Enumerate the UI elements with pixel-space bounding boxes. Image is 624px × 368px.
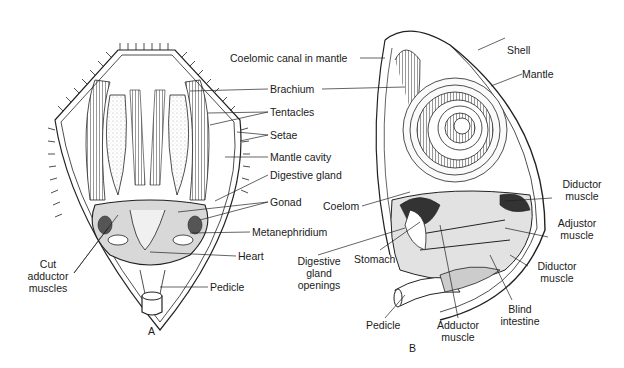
label-adductor-muscle: Adductor muscle — [430, 319, 486, 343]
label-coelomic-canal: Coelomic canal in mantle — [230, 52, 347, 64]
brachiopod-anatomy-figure: Brachium Tentacles Setae Mantle cavity D… — [0, 0, 624, 368]
label-pedicle-a: Pedicle — [210, 281, 244, 293]
label-brachium-a: Brachium — [270, 83, 314, 95]
label-stomach: Stomach — [354, 253, 395, 265]
label-metanephridium: Metanephridium — [252, 226, 327, 238]
label-digestive-gland-openings: Digestive gland openings — [288, 255, 350, 291]
label-cut-adductor-muscles: Cut adductor muscles — [22, 258, 74, 294]
label-heart: Heart — [238, 250, 264, 262]
label-setae: Setae — [270, 129, 297, 141]
label-adjustor-muscle: Adjustor muscle — [548, 217, 606, 241]
label-shell: Shell — [507, 44, 530, 56]
label-coelom: Coelom — [323, 200, 359, 212]
label-tentacles: Tentacles — [270, 106, 314, 118]
panel-letter-b: B — [409, 342, 416, 354]
label-diductor-muscle-lower: Diductor muscle — [528, 260, 586, 284]
label-mantle-cavity: Mantle cavity — [270, 151, 331, 163]
label-pedicle-b: Pedicle — [366, 319, 400, 331]
panel-letter-a: A — [148, 325, 155, 337]
label-blind-intestine: Blind intestine — [492, 303, 548, 327]
panel-b-body — [376, 31, 545, 320]
label-mantle: Mantle — [522, 68, 554, 80]
label-digestive-gland: Digestive gland — [270, 169, 342, 181]
label-gonad: Gonad — [270, 196, 302, 208]
label-diductor-muscle-upper: Diductor muscle — [552, 178, 612, 202]
